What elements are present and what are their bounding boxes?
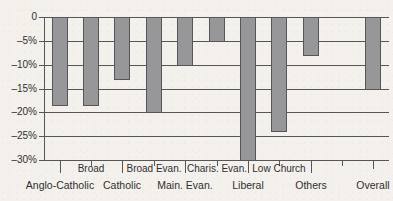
bar-charis-evan- [209, 18, 225, 42]
bar-low-church [271, 18, 287, 132]
bar-liberal [240, 18, 256, 161]
bar-anglo-catholic [52, 18, 68, 106]
y-axis-label: –20% [0, 106, 37, 118]
category-label-overall: Overall [311, 179, 393, 192]
y-axis-label: –10% [0, 59, 37, 71]
bar-main-evan- [177, 18, 193, 66]
x-axis-tick [373, 161, 374, 169]
gridline--20 [44, 112, 389, 113]
gridline--25 [44, 136, 389, 137]
bar-broad-evan- [146, 18, 162, 113]
y-axis-line [44, 17, 45, 160]
bar-catholic [114, 18, 130, 80]
bar-overall [365, 18, 381, 90]
y-axis-label: –15% [0, 83, 37, 95]
bar-others [303, 18, 319, 56]
category-label-low-church: Low Church [217, 163, 341, 175]
y-axis-tick [39, 160, 44, 161]
scanned-page: 0–5%–10%–15%–20%–25%–30%Anglo-CatholicBr… [0, 0, 393, 201]
church-decline-bar-chart: 0–5%–10%–15%–20%–25%–30%Anglo-CatholicBr… [0, 0, 393, 201]
x-axis-tick [342, 161, 343, 166]
x-axis-tick [311, 161, 312, 173]
bar-broad [83, 18, 99, 106]
y-axis-label: –5% [0, 35, 37, 47]
y-axis-label: 0 [0, 11, 37, 23]
y-axis-label: –25% [0, 130, 37, 142]
